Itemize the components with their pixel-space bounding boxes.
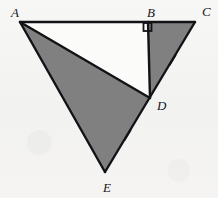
vertex-label-e: E <box>102 180 111 195</box>
vertex-label-a: A <box>10 5 19 20</box>
vertex-label-d: D <box>156 98 167 113</box>
vertex-label-b: B <box>147 5 155 20</box>
geometry-figure: A B C D E <box>0 0 218 198</box>
region-fills <box>20 22 195 172</box>
vertex-label-c: C <box>202 4 211 19</box>
geometry-canvas: A B C D E <box>0 0 218 198</box>
